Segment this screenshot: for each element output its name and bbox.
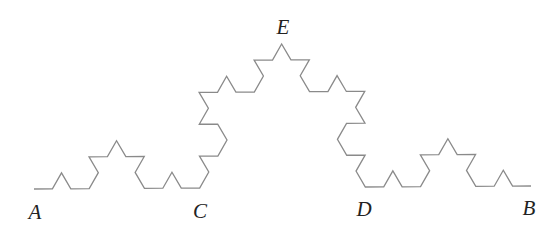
label-d: D <box>356 199 371 220</box>
koch-curve-path <box>34 44 531 189</box>
koch-curve-diagram: A C E D B <box>0 0 552 231</box>
label-b: B <box>523 198 536 219</box>
label-e: E <box>277 17 290 38</box>
label-a: A <box>29 202 42 223</box>
label-c: C <box>193 201 207 222</box>
